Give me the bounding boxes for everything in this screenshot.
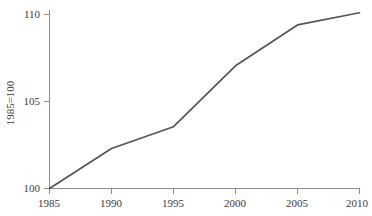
x-tick-label-2010: 2010	[346, 197, 369, 209]
x-tick-label-2000: 2000	[224, 197, 247, 209]
line-chart: 110 105 100 1985=100 1985 1990 1995 2000…	[0, 0, 372, 216]
chart-figure: 110 105 100 1985=100 1985 1990 1995 2000…	[0, 0, 372, 216]
y-tick-label-105: 105	[24, 95, 41, 107]
y-tick-label-100: 100	[24, 182, 41, 194]
x-tick-label-1990: 1990	[100, 197, 123, 209]
x-tick-label-1995: 1995	[162, 197, 185, 209]
y-tick-label-110: 110	[24, 8, 41, 20]
y-axis-title: 1985=100	[4, 80, 16, 125]
x-tick-label-1985: 1985	[38, 197, 61, 209]
x-tick-label-2005: 2005	[286, 197, 309, 209]
